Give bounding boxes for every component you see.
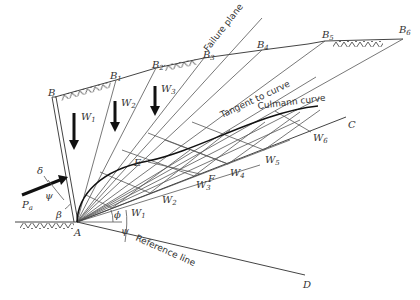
parallel-lines — [86, 110, 320, 208]
svg-text:D: D — [302, 279, 311, 290]
svg-text:F: F — [207, 173, 216, 184]
svg-text:W1: W1 — [81, 111, 96, 124]
svg-text:ψ: ψ — [121, 225, 129, 236]
svg-text:B: B — [47, 87, 55, 98]
svg-text:B2: B2 — [151, 59, 164, 72]
svg-text:Reference line: Reference line — [134, 233, 197, 269]
svg-text:B6: B6 — [398, 24, 411, 37]
svg-text:E: E — [133, 157, 142, 168]
svg-text:W6: W6 — [313, 132, 328, 145]
backfill-surface — [55, 39, 403, 101]
svg-text:W4: W4 — [230, 167, 245, 180]
svg-text:ϕ: ϕ — [114, 209, 121, 220]
culmann-diagram: B B1 B2 B3 B4 B5 B6 W1 W2 W3 W1 W2 W3 W4… — [0, 0, 420, 300]
svg-text:C: C — [348, 119, 356, 130]
svg-text:W2: W2 — [121, 97, 136, 110]
svg-text:W1: W1 — [131, 207, 146, 220]
svg-text:W3: W3 — [161, 83, 176, 96]
svg-text:Failure plane: Failure plane — [202, 1, 246, 53]
svg-text:W2: W2 — [162, 194, 177, 207]
svg-text:ψ: ψ — [45, 190, 53, 201]
svg-text:β: β — [55, 209, 62, 220]
svg-text:B5: B5 — [321, 29, 334, 42]
svg-text:A: A — [73, 227, 81, 238]
svg-text:Pa: Pa — [21, 199, 33, 212]
svg-text:W5: W5 — [265, 154, 280, 167]
svg-text:δ: δ — [37, 165, 43, 176]
ground-left — [15, 222, 77, 229]
